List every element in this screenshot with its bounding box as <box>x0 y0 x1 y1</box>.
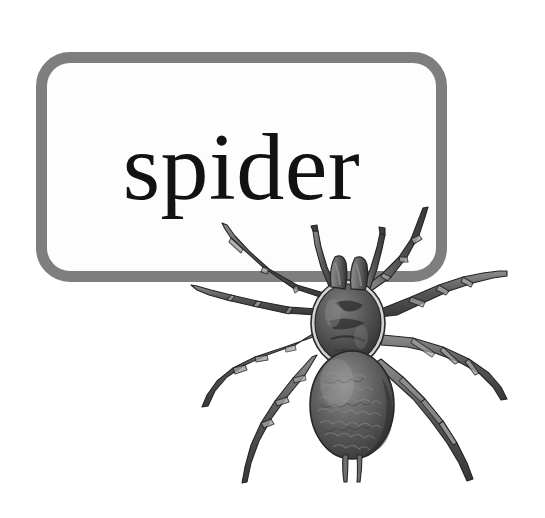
vocabulary-flashcard: spider <box>0 0 545 518</box>
leg-right-2 <box>379 271 507 317</box>
spider-drawing <box>185 205 515 490</box>
leg-right-3 <box>381 335 507 400</box>
spider-abdomen <box>310 351 394 459</box>
spider-illustration <box>185 205 515 490</box>
leg-left-3 <box>202 332 316 407</box>
leg-left-4 <box>242 355 317 483</box>
leg-left-1 <box>222 223 324 297</box>
